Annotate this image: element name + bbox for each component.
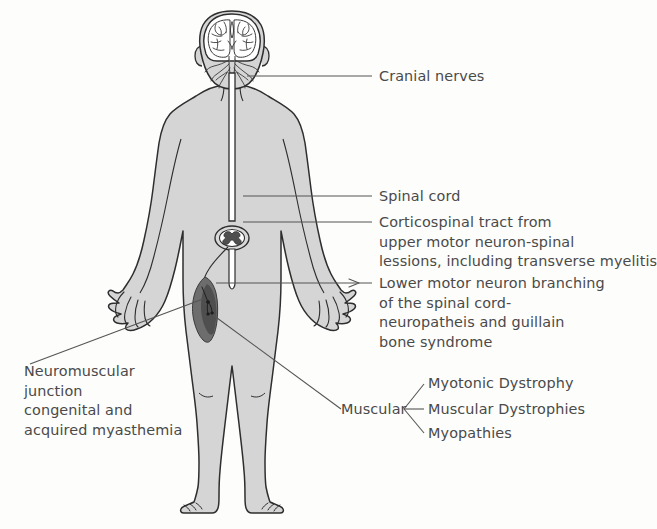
label-lower-motor-neuron-line-1: Lower motor neuron branching [379, 274, 605, 294]
spinal-cord-shaft [229, 73, 235, 221]
muscular-branch-top [404, 384, 424, 409]
label-myopathies: Myopathies [428, 424, 512, 444]
label-myotonic-dystrophy: Myotonic Dystrophy [428, 374, 574, 394]
muscular-branch-bottom [404, 409, 424, 433]
label-lower-motor-neuron-line-4: bone syndrome [379, 333, 605, 353]
label-lower-motor-neuron-line-3: neuropatheis and guillain [379, 313, 605, 333]
label-lower-motor-neuron: Lower motor neuron branching of the spin… [379, 274, 605, 352]
label-neuromuscular-junction-line-3: congenital and [24, 401, 182, 421]
label-neuromuscular-junction: Neuromuscular junction congenital and ac… [24, 362, 182, 440]
label-cranial-nerves: Cranial nerves [379, 67, 484, 87]
label-corticospinal-tract-line-2: upper motor neuron-spinal [379, 233, 657, 253]
label-neuromuscular-junction-line-1: Neuromuscular [24, 362, 182, 382]
label-neuromuscular-junction-line-2: junction [24, 382, 182, 402]
label-corticospinal-tract-line-3: lessions, including transverse myelitis [379, 252, 657, 272]
label-muscular-dystrophies: Muscular Dystrophies [428, 400, 585, 420]
label-neuromuscular-junction-line-4: acquired myasthemia [24, 421, 182, 441]
label-muscular: Muscular [341, 400, 407, 420]
label-corticospinal-tract: Corticospinal tract from upper motor neu… [379, 213, 657, 272]
label-lower-motor-neuron-line-2: of the spinal cord- [379, 294, 605, 314]
label-spinal-cord: Spinal cord [379, 187, 460, 207]
label-corticospinal-tract-line-1: Corticospinal tract from [379, 213, 657, 233]
